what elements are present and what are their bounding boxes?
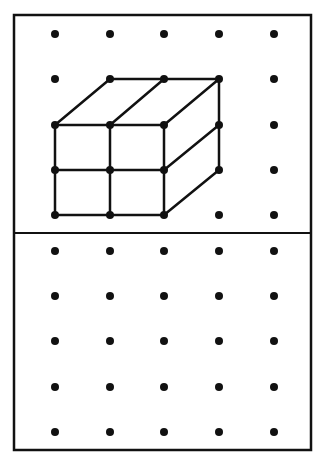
grid-dot	[160, 337, 168, 345]
grid-dot	[270, 211, 278, 219]
grid-dot	[160, 247, 168, 255]
grid-dot	[51, 337, 59, 345]
grid-dot	[160, 383, 168, 391]
grid-dot	[51, 292, 59, 300]
grid-dot	[215, 428, 223, 436]
grid-dot	[270, 75, 278, 83]
grid-dot	[106, 428, 114, 436]
grid-dot	[270, 30, 278, 38]
grid-dot	[106, 30, 114, 38]
cube-right-middle-edge	[164, 125, 219, 170]
grid-dot	[160, 30, 168, 38]
grid-dot	[160, 428, 168, 436]
cube-top-left-edge	[55, 79, 110, 125]
grid-dot	[215, 247, 223, 255]
grid-dot	[51, 428, 59, 436]
grid-dot	[270, 166, 278, 174]
grid-dot	[106, 383, 114, 391]
grid-dot	[51, 247, 59, 255]
grid-dot	[215, 337, 223, 345]
grid-dot	[270, 337, 278, 345]
dot-paper-figure	[0, 0, 317, 454]
grid-dot	[106, 337, 114, 345]
grid-dot	[51, 30, 59, 38]
cube-drawing	[55, 79, 219, 215]
grid-dot	[106, 292, 114, 300]
cube-right-bottom-edge	[164, 170, 219, 215]
grid-dot	[215, 383, 223, 391]
grid-dot	[270, 247, 278, 255]
bottom-panel-dot-grid	[51, 247, 278, 436]
grid-dot	[270, 121, 278, 129]
grid-dot	[215, 292, 223, 300]
grid-dot	[51, 383, 59, 391]
cube-top-right-edge	[164, 79, 219, 125]
grid-dot	[106, 247, 114, 255]
cube-top-middle-edge	[110, 79, 164, 125]
grid-dot	[215, 30, 223, 38]
grid-dot	[270, 428, 278, 436]
grid-dot	[215, 211, 223, 219]
grid-dot	[270, 292, 278, 300]
grid-dot	[270, 383, 278, 391]
grid-dot	[160, 292, 168, 300]
grid-dot	[51, 75, 59, 83]
